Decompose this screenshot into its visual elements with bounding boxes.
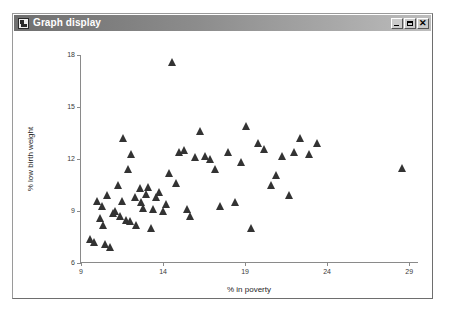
data-point-marker bbox=[119, 134, 127, 142]
data-point-marker bbox=[285, 191, 293, 199]
x-tick-mark bbox=[245, 262, 246, 266]
window-title: Graph display bbox=[33, 15, 101, 31]
data-point-marker bbox=[211, 165, 219, 173]
data-point-marker bbox=[267, 181, 275, 189]
x-tick-label: 9 bbox=[79, 268, 83, 276]
window-titlebar[interactable]: Graph display ✕ bbox=[14, 15, 431, 31]
data-point-marker bbox=[242, 122, 250, 130]
data-point-marker bbox=[290, 148, 298, 156]
data-point-marker bbox=[159, 207, 167, 215]
x-tick-label: 14 bbox=[159, 268, 167, 276]
data-point-marker bbox=[114, 181, 122, 189]
data-point-marker bbox=[191, 153, 199, 161]
graph-window-icon bbox=[18, 18, 29, 29]
y-axis-title: % low birth weight bbox=[26, 127, 35, 191]
data-point-marker bbox=[237, 158, 245, 166]
y-tick-label: 15 bbox=[67, 103, 75, 111]
data-point-marker bbox=[103, 191, 111, 199]
data-point-marker bbox=[296, 134, 304, 142]
y-tick-label: 9 bbox=[71, 207, 75, 215]
x-axis-title: % in poverty bbox=[80, 285, 418, 294]
data-point-marker bbox=[196, 127, 204, 135]
data-point-marker bbox=[98, 202, 106, 210]
data-point-marker bbox=[139, 204, 147, 212]
data-point-marker bbox=[118, 197, 126, 205]
data-point-marker bbox=[186, 212, 194, 220]
data-point-marker bbox=[142, 190, 150, 198]
y-tick-label: 18 bbox=[67, 51, 75, 59]
maximize-button[interactable] bbox=[404, 18, 416, 29]
data-point-marker bbox=[278, 152, 286, 160]
x-tick-label: 19 bbox=[241, 268, 249, 276]
data-point-marker bbox=[231, 198, 239, 206]
data-point-marker bbox=[398, 164, 406, 172]
y-tick-mark bbox=[77, 55, 81, 56]
x-tick-mark bbox=[409, 262, 410, 266]
window-controls: ✕ bbox=[391, 18, 429, 29]
plot-frame: 69121518 914192429 bbox=[80, 55, 418, 263]
data-point-marker bbox=[313, 139, 321, 147]
y-tick-mark bbox=[77, 211, 81, 212]
data-point-marker bbox=[247, 224, 255, 232]
x-tick-mark bbox=[327, 262, 328, 266]
data-point-marker bbox=[305, 150, 313, 158]
graph-display-window: Graph display ✕ 69121518 914192429 % in … bbox=[12, 13, 433, 299]
window-client-area: 69121518 914192429 % in poverty % low bi… bbox=[14, 31, 431, 297]
y-tick-label: 6 bbox=[71, 259, 75, 267]
x-tick-mark bbox=[81, 262, 82, 266]
data-point-marker bbox=[144, 183, 152, 191]
data-point-marker bbox=[127, 150, 135, 158]
screen-root: Graph display ✕ 69121518 914192429 % in … bbox=[0, 0, 450, 317]
data-point-marker bbox=[155, 188, 163, 196]
minimize-button[interactable] bbox=[391, 18, 403, 29]
scatter-plot: 69121518 914192429 % in poverty % low bi… bbox=[14, 31, 431, 297]
data-point-marker bbox=[162, 200, 170, 208]
data-point-marker bbox=[165, 169, 173, 177]
x-tick-label: 24 bbox=[323, 268, 331, 276]
data-point-marker bbox=[124, 165, 132, 173]
y-tick-mark bbox=[77, 159, 81, 160]
close-icon: ✕ bbox=[418, 19, 428, 28]
data-point-marker bbox=[132, 221, 140, 229]
y-tick-label: 12 bbox=[67, 155, 75, 163]
data-point-marker bbox=[272, 171, 280, 179]
data-point-marker bbox=[180, 146, 188, 154]
data-point-marker bbox=[172, 179, 180, 187]
data-point-marker bbox=[147, 224, 155, 232]
data-point-marker bbox=[216, 202, 224, 210]
data-point-marker bbox=[99, 221, 107, 229]
data-point-marker bbox=[90, 238, 98, 246]
data-point-marker bbox=[224, 148, 232, 156]
x-tick-mark bbox=[163, 262, 164, 266]
data-point-marker bbox=[168, 58, 176, 66]
data-point-marker bbox=[206, 155, 214, 163]
x-tick-label: 29 bbox=[405, 268, 413, 276]
close-button[interactable]: ✕ bbox=[417, 18, 429, 29]
data-point-marker bbox=[106, 243, 114, 251]
data-point-marker bbox=[149, 205, 157, 213]
data-point-marker bbox=[260, 145, 268, 153]
y-tick-mark bbox=[77, 107, 81, 108]
